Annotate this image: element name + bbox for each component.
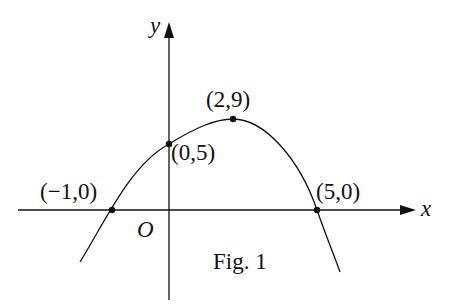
point-neg1-0 bbox=[109, 207, 115, 213]
point-label-0-5: (0,5) bbox=[171, 141, 215, 164]
y-axis-label: y bbox=[150, 14, 160, 37]
point-2-9 bbox=[230, 116, 236, 122]
x-axis-label: x bbox=[421, 197, 431, 220]
origin-label: O bbox=[137, 218, 154, 241]
parabola-figure: y x O (−1,0) (0,5) (2,9) (5,0) Fig. 1 bbox=[0, 0, 455, 307]
point-label-2-9: (2,9) bbox=[206, 88, 250, 111]
point-5-0 bbox=[314, 207, 320, 213]
point-label-neg1-0: (−1,0) bbox=[40, 180, 97, 203]
point-label-5-0: (5,0) bbox=[316, 180, 360, 203]
y-axis-arrow-icon bbox=[164, 22, 174, 38]
x-axis-arrow-icon bbox=[400, 205, 416, 215]
figure-caption: Fig. 1 bbox=[213, 250, 267, 273]
